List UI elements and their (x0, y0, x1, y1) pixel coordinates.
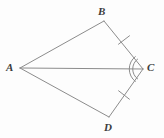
vertex-label-D: D (104, 122, 112, 133)
segment-CD (109, 69, 143, 117)
geometry-figure: A B C D (0, 0, 164, 138)
segment-DA (20, 68, 109, 117)
vertex-label-B: B (98, 6, 105, 17)
tick-mark-BC (119, 36, 130, 44)
vertex-label-A: A (6, 62, 13, 73)
geometry-canvas (0, 0, 164, 138)
segment-AC-diagonal (20, 68, 143, 69)
vertex-label-C: C (147, 62, 154, 73)
segment-BC (104, 21, 143, 69)
segment-AB (20, 21, 104, 68)
tick-mark-CD (119, 91, 130, 99)
